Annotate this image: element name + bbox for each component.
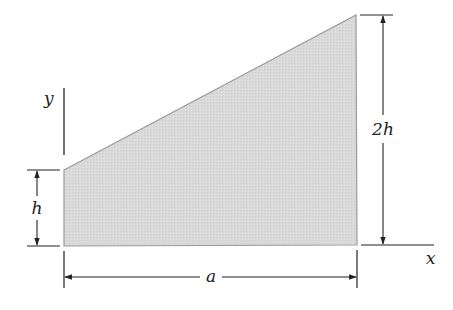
- 2h-dimension-label: 2h: [371, 119, 394, 139]
- trapezoid-area-diagram: y h 2h x a: [0, 0, 453, 310]
- shaded-trapezoid-region: [64, 15, 357, 246]
- x-axis-label: x: [426, 248, 436, 268]
- h-dimension-label: h: [32, 198, 43, 218]
- a-dimension-label: a: [206, 266, 216, 286]
- y-axis-label: y: [43, 88, 54, 108]
